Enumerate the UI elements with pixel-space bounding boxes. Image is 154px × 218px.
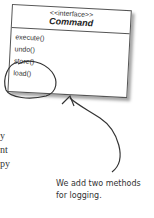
body-text-fragment: py — [0, 158, 10, 169]
note-line-2: for logging. — [56, 190, 154, 202]
arrow-line — [70, 98, 120, 172]
body-text-fragment: nt — [0, 144, 8, 155]
circle-annotation — [5, 61, 56, 98]
note-line-1: We add two methods — [56, 178, 154, 190]
arrow-head-icon — [62, 96, 74, 106]
handwritten-note: We add two methods for logging. — [56, 178, 154, 202]
body-text-fragment: y — [0, 130, 5, 141]
